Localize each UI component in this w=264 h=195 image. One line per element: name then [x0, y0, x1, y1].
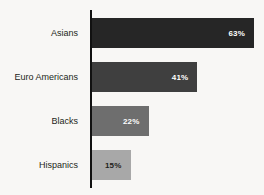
category-label: Euro Americans [0, 62, 84, 92]
bar-value-label: 15% [105, 161, 131, 170]
bar-value-label: 63% [228, 29, 254, 38]
bar-value-label: 22% [123, 117, 149, 126]
bar: 15% [92, 150, 131, 180]
category-label: Hispanics [0, 150, 84, 180]
bar-value-label: 41% [172, 73, 198, 82]
bar: 22% [92, 106, 149, 136]
bar-chart: Asians Euro Americans Blacks Hispanics 6… [0, 0, 264, 195]
bar: 41% [92, 62, 197, 92]
bar: 63% [92, 18, 254, 48]
plot-area: 63% 41% 22% 15% [90, 10, 264, 188]
category-label: Asians [0, 18, 84, 48]
category-label: Blacks [0, 106, 84, 136]
